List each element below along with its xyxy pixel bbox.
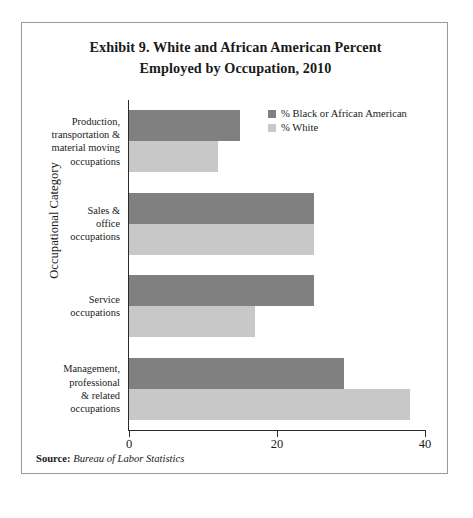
bar-black-or-african-american xyxy=(129,358,344,389)
exhibit-frame: Exhibit 9. White and African American Pe… xyxy=(21,22,448,474)
category-label: Management,professional& relatedoccupati… xyxy=(34,362,120,415)
category-label-line: occupations xyxy=(34,402,120,415)
legend-label: % Black or African American xyxy=(281,108,407,119)
bar-white xyxy=(129,224,314,255)
chart-legend: % Black or African American % White xyxy=(268,108,407,136)
bar-white xyxy=(129,141,218,172)
legend-swatch-icon-light xyxy=(268,124,276,132)
bar-black-or-african-american xyxy=(129,110,240,141)
plot-area: 02040 Production,transportation &materia… xyxy=(22,23,449,475)
x-axis-tick-label: 0 xyxy=(109,437,149,452)
source-label: Source: xyxy=(36,453,71,464)
x-axis-tick-label: 40 xyxy=(405,437,445,452)
legend-label: % White xyxy=(281,122,318,133)
bar-white xyxy=(129,306,255,337)
x-axis-tick-label: 20 xyxy=(257,437,297,452)
legend-item-white: % White xyxy=(268,122,407,133)
category-label-line: professional xyxy=(34,376,120,389)
category-label-line: & related xyxy=(34,389,120,402)
source-note: Source: Bureau of Labor Statistics xyxy=(36,453,184,464)
bar-white xyxy=(129,389,410,420)
y-axis-title: Occupational Category xyxy=(47,126,62,316)
category-label-line: Management, xyxy=(34,362,120,375)
legend-item-black-or-african-american: % Black or African American xyxy=(268,108,407,119)
bar-black-or-african-american xyxy=(129,193,314,224)
bar-black-or-african-american xyxy=(129,275,314,306)
legend-swatch-icon-dark xyxy=(268,110,276,118)
source-value: Bureau of Labor Statistics xyxy=(73,453,184,464)
